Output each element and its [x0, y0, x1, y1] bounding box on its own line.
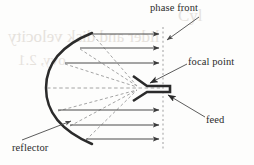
feed-ray: [93, 35, 137, 86]
reflector-leader: [22, 121, 71, 140]
feed-ray: [70, 90, 137, 126]
label-focal-point: focal point: [188, 57, 234, 68]
feed-ray: [86, 90, 137, 140]
feed-leader: [168, 95, 205, 117]
label-phase-front: phase front: [150, 3, 198, 14]
focal-point-leader: [150, 64, 187, 83]
label-feed: feed: [206, 115, 224, 126]
phase-front-leader: [167, 17, 199, 40]
feed-horn-shape: [133, 76, 170, 101]
label-reflector: reflector: [12, 143, 48, 154]
parallel-ray-group: [58, 34, 159, 139]
feed-ray: [80, 49, 137, 86]
antenna-diagram-figure: Cyl lider and disk velocity ovy, 2.1: [0, 0, 254, 165]
feed-ray: [65, 64, 137, 87]
feed-ray: [58, 90, 137, 111]
feed-ray-group: [58, 35, 137, 140]
reflector-arc: [46, 33, 92, 144]
diagram-canvas: [0, 0, 254, 165]
